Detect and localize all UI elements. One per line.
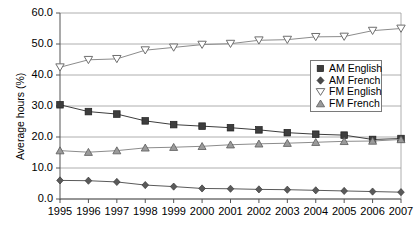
triangle-down-marker — [56, 64, 64, 71]
data-point — [199, 185, 206, 192]
data-point — [256, 127, 263, 134]
square-marker — [142, 118, 149, 125]
legend-label: FM French — [329, 98, 380, 109]
data-point — [57, 177, 64, 184]
legend-label: FM English — [329, 86, 382, 97]
data-point — [142, 118, 149, 125]
legend-item[interactable]: FM French — [314, 98, 377, 110]
data-point — [256, 186, 263, 193]
data-point — [114, 111, 121, 118]
data-point — [284, 186, 291, 193]
data-point — [85, 177, 92, 184]
chart-legend: AM EnglishAM FrenchFM EnglishFM French — [310, 60, 382, 112]
diamond-marker — [369, 188, 376, 195]
diamond-marker — [341, 187, 348, 194]
data-point — [369, 188, 376, 195]
legend-item[interactable]: AM English — [314, 63, 377, 75]
plot-area — [0, 0, 416, 229]
diamond-marker — [227, 185, 234, 192]
diamond-icon — [314, 75, 327, 86]
data-point — [284, 129, 291, 136]
data-point — [312, 187, 319, 194]
diamond-marker — [114, 178, 121, 185]
data-point — [398, 189, 405, 196]
diamond-marker — [312, 187, 319, 194]
square-marker — [227, 124, 234, 131]
triangle-up-icon — [314, 98, 327, 109]
diamond-marker — [170, 183, 177, 190]
square-marker — [114, 111, 121, 118]
diamond-marker — [199, 185, 206, 192]
data-point — [142, 181, 149, 188]
line-chart: Average hours (%) 0.010.020.030.040.050.… — [0, 0, 416, 229]
diamond-marker — [256, 186, 263, 193]
data-point — [170, 121, 177, 128]
square-icon — [314, 63, 327, 74]
triangle-down-icon — [314, 86, 327, 97]
diamond-marker — [398, 189, 405, 196]
square-marker — [199, 123, 206, 130]
diamond-marker — [284, 186, 291, 193]
data-point — [227, 185, 234, 192]
diamond-marker — [85, 177, 92, 184]
square-marker — [284, 129, 291, 136]
square-marker — [170, 121, 177, 128]
data-point — [57, 101, 64, 108]
series-am-french — [57, 177, 405, 196]
data-point — [199, 123, 206, 130]
data-point — [85, 108, 92, 115]
diamond-marker — [57, 177, 64, 184]
legend-label: AM French — [329, 75, 380, 86]
square-marker — [57, 101, 64, 108]
data-point — [114, 178, 121, 185]
diamond-marker — [142, 181, 149, 188]
legend-label: AM English — [329, 63, 382, 74]
data-point — [227, 124, 234, 131]
square-marker — [256, 127, 263, 134]
data-point — [312, 131, 319, 138]
data-point — [341, 187, 348, 194]
legend-item[interactable]: FM English — [314, 86, 377, 98]
data-point — [56, 64, 64, 71]
series-fm-french — [56, 136, 405, 156]
data-point — [170, 183, 177, 190]
square-marker — [312, 131, 319, 138]
square-marker — [85, 108, 92, 115]
